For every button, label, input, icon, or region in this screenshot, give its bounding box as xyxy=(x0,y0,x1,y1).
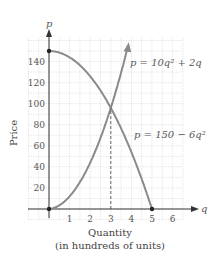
y-axis-label: Price xyxy=(8,120,19,146)
supply-demand-chart: 12345620406080100120140 p q Price Quanti… xyxy=(0,0,214,258)
tick-labels: 12345620406080100120140 xyxy=(28,57,176,224)
y-axis-symbol: p xyxy=(46,18,53,29)
y-tick-label: 20 xyxy=(34,183,46,193)
x-axis-label: Quantity xyxy=(88,227,132,238)
demand-equation-label: p = 150 − 6q² xyxy=(134,129,206,140)
supply-arrow-icon xyxy=(124,42,132,52)
y-tick-label: 100 xyxy=(28,99,45,109)
x-axis-symbol: q xyxy=(201,203,207,214)
data-point xyxy=(47,207,51,211)
data-point xyxy=(47,49,51,53)
x-tick-label: 2 xyxy=(87,214,93,224)
x-tick-label: 4 xyxy=(129,214,135,224)
y-tick-label: 40 xyxy=(34,162,46,172)
x-tick-label: 3 xyxy=(108,214,114,224)
x-tick-label: 6 xyxy=(170,214,176,224)
y-axis-arrow-icon xyxy=(46,29,52,37)
x-tick-label: 1 xyxy=(67,214,73,224)
data-point xyxy=(150,207,154,211)
x-tick-label: 5 xyxy=(149,214,155,224)
y-tick-label: 80 xyxy=(34,120,46,130)
y-tick-label: 120 xyxy=(28,78,45,88)
x-axis-sublabel: (in hundreds of units) xyxy=(55,240,165,251)
y-tick-label: 140 xyxy=(28,57,45,67)
y-tick-label: 60 xyxy=(34,141,46,151)
x-axis-arrow-icon xyxy=(191,206,199,212)
supply-equation-label: p = 10q² + 2q xyxy=(130,57,202,68)
